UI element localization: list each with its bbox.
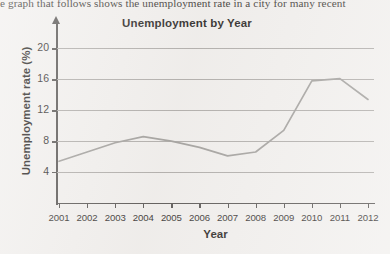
plot-area: 48121620 2001200220032004200520062007200… bbox=[57, 33, 374, 203]
data-series-line bbox=[57, 33, 374, 203]
x-tick-mark bbox=[284, 203, 285, 208]
y-tick-label: 16 bbox=[27, 72, 49, 84]
x-tick-mark bbox=[87, 203, 88, 208]
chart-title-text: Unemployment by Year bbox=[122, 17, 252, 29]
y-tick-label: 8 bbox=[27, 134, 49, 146]
y-tick-label: 20 bbox=[27, 41, 49, 53]
figure-container: e graph that follows shows the unemploym… bbox=[0, 0, 390, 254]
y-tick-label: 4 bbox=[27, 165, 49, 177]
surrounding-body-text: e graph that follows shows the unemploym… bbox=[0, 0, 390, 9]
x-tick-mark bbox=[59, 203, 60, 208]
x-tick-mark bbox=[256, 203, 257, 208]
x-axis-line bbox=[56, 203, 375, 204]
x-tick-mark bbox=[199, 203, 200, 208]
x-tick-mark bbox=[143, 203, 144, 208]
x-tick-mark bbox=[115, 203, 116, 208]
x-tick-mark bbox=[340, 203, 341, 208]
y-tick-label: 12 bbox=[27, 103, 49, 115]
x-tick-mark bbox=[171, 203, 172, 208]
x-tick-label: 2012 bbox=[351, 212, 385, 223]
x-tick-mark bbox=[312, 203, 313, 208]
x-tick-mark bbox=[228, 203, 229, 208]
x-tick-mark bbox=[368, 203, 369, 208]
x-axis-title: Year bbox=[57, 228, 374, 240]
